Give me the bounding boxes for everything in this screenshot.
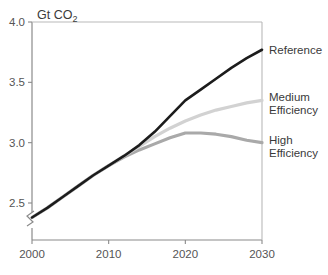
x-tick-label: 2000 [19,248,45,260]
chart-container: 2.53.03.54.0 2000201020202030 Gt CO2 Ref… [0,0,328,275]
y-axis-title: Gt CO2 [37,8,77,24]
series-line [32,133,262,217]
series-label: Reference [269,44,322,56]
y-axis-ticks: 2.53.03.54.0 [9,16,32,209]
series-labels-group: ReferenceMediumEfficiencyHighEfficiency [269,44,322,159]
x-tick-label: 2010 [96,248,122,260]
series-label: Medium [269,91,310,103]
x-axis-ticks: 2000201020202030 [19,240,275,260]
series-label-line2: Efficiency [269,104,318,116]
x-tick-label: 2030 [249,248,275,260]
axes-frame [32,22,262,240]
y-axis-title-main: Gt CO [37,8,73,22]
line-chart: 2.53.03.54.0 2000201020202030 Gt CO2 Ref… [0,0,328,275]
series-label: High [269,134,293,146]
y-tick-label: 3.0 [9,137,25,149]
y-tick-label: 2.5 [9,197,25,209]
y-tick-label: 3.5 [9,76,25,88]
series-line [32,100,262,217]
y-tick-label: 4.0 [9,16,25,28]
series-label-line2: Efficiency [269,147,318,159]
x-tick-label: 2020 [173,248,199,260]
y-axis-title-subscript: 2 [72,14,77,24]
series-group [32,50,262,218]
